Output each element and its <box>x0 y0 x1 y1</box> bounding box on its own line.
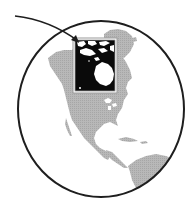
south-america <box>128 154 190 200</box>
globe-map-illustration <box>0 0 192 200</box>
speck <box>79 87 81 89</box>
speck <box>88 60 90 62</box>
globe-map <box>0 0 192 200</box>
highlight-box <box>73 38 117 93</box>
